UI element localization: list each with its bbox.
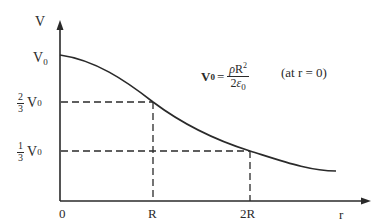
x-axis-arrow-icon xyxy=(361,198,371,205)
fraction-numerator: 1 xyxy=(17,141,24,153)
formula-note: (at r = 0) xyxy=(281,65,327,81)
y-tick-two-thirds-V0: 2 3 V0 xyxy=(17,92,42,114)
radius-symbol: R xyxy=(235,62,243,76)
origin-label: 0 xyxy=(59,207,66,220)
y-tick-sub: 0 xyxy=(37,99,42,108)
y-tick-V0-main: V xyxy=(33,50,43,65)
epsilon-sub: 0 xyxy=(241,82,246,92)
y-tick-sub: 0 xyxy=(37,148,42,157)
y-tick-V0: V0 xyxy=(33,51,48,67)
formula-lhs: V xyxy=(201,69,210,85)
potential-plot xyxy=(0,0,381,224)
x-axis-label: r xyxy=(339,208,343,221)
formula-lhs-sub: 0 xyxy=(210,72,215,82)
formula-equals: = xyxy=(217,69,224,85)
x-tick-2R: 2R xyxy=(240,207,255,220)
y-tick-main: V xyxy=(27,145,37,159)
y-tick-V0-sub: 0 xyxy=(43,57,48,67)
fraction-numerator: 2 xyxy=(17,92,24,104)
y-axis-label: V xyxy=(35,15,45,29)
fraction-denominator: 3 xyxy=(18,153,23,164)
y-tick-one-third-V0: 1 3 V0 xyxy=(17,141,42,163)
guide-lines xyxy=(61,102,250,201)
y-axis-arrow-icon xyxy=(57,20,64,30)
x-tick-R: R xyxy=(148,207,157,220)
formula-numerator: ρR2 xyxy=(227,62,249,77)
formula-v0: V0 = ρR2 2ε0 xyxy=(201,62,249,92)
fraction-two-thirds: 2 3 xyxy=(17,92,24,114)
formula-denominator: 2ε0 xyxy=(231,77,246,92)
exponent: 2 xyxy=(243,61,247,70)
formula-fraction: ρR2 2ε0 xyxy=(227,62,249,92)
y-tick-main: V xyxy=(27,96,37,110)
fraction-denominator: 3 xyxy=(18,104,23,115)
fraction-one-third: 1 3 xyxy=(17,141,24,163)
